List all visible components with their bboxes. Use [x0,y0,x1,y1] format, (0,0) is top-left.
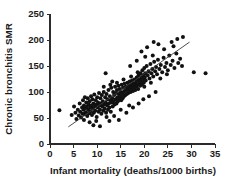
x-tick-label-30: 30 [186,148,197,159]
data-point [156,58,160,62]
data-point [166,68,170,72]
data-point [129,74,133,78]
data-point [157,67,161,71]
data-point [165,72,169,76]
data-point [172,66,176,70]
data-point [155,72,159,76]
data-point [119,108,123,112]
scatter-chart: 050100150200250 05101520253035 Infant mo… [0,0,228,178]
x-tick-label-20: 20 [139,148,150,159]
data-point [176,61,180,65]
data-point [149,81,153,85]
data-point [98,124,102,128]
data-point [94,119,98,123]
data-point [105,92,109,96]
data-point [117,118,121,122]
data-point [162,47,166,51]
data-point [135,59,139,63]
data-point [169,63,173,67]
data-point [147,76,151,80]
data-point [144,79,148,83]
data-point [115,81,119,85]
data-point [124,111,128,115]
y-tick-label-100: 100 [28,86,44,97]
data-point [158,76,162,80]
x-tick-labels: 05101520253035 [47,148,221,159]
y-tick-label-0: 0 [39,138,44,149]
regression-line [68,42,189,127]
x-tick-label-10: 10 [92,148,103,159]
data-point [172,44,176,48]
x-tick-label-5: 5 [71,148,77,159]
data-point [82,118,86,122]
y-tick-label-150: 150 [28,60,44,71]
data-point [148,62,152,66]
x-tick-label-35: 35 [210,148,221,159]
data-point [72,105,76,109]
y-tick-labels: 050100150200250 [28,8,44,149]
data-point [180,64,184,68]
data-point [154,90,158,94]
data-point [160,70,164,74]
data-point [127,104,131,108]
y-tick-label-200: 200 [28,34,44,45]
data-point [128,64,132,68]
x-axis-title: Infant mortality (deaths/1000 births) [50,165,216,176]
data-point [78,101,82,105]
x-tick-label-25: 25 [163,148,174,159]
data-point [152,60,156,64]
x-tick-label-15: 15 [115,148,126,159]
data-point [163,65,167,69]
data-point [102,85,106,89]
data-point [204,71,208,75]
data-point [156,42,160,46]
y-axis-title: Chronic bronchitis SMR [3,23,14,135]
data-point [142,85,146,89]
data-point [107,119,111,123]
data-point [91,123,95,127]
y-tick-label-50: 50 [33,112,44,123]
data-point [171,59,175,63]
data-point [105,115,109,119]
data-point [178,57,182,61]
data-point [145,64,149,68]
y-axis-group: 050100150200250 [28,8,50,149]
data-point [141,97,145,101]
data-point [112,114,116,118]
data-point [151,74,155,78]
data-point [181,35,185,39]
data-point [122,78,126,82]
data-point [139,49,143,53]
data-point [175,37,179,41]
data-point [70,113,74,117]
data-point [151,54,155,58]
y-tick-label-250: 250 [28,8,44,19]
data-point [109,110,113,114]
data-point [152,40,156,44]
data-point [164,61,168,65]
data-point [131,106,135,110]
x-tick-label-0: 0 [47,148,52,159]
data-point [192,70,196,74]
data-point [57,108,61,112]
data-point [95,115,99,119]
data-point [88,120,92,124]
data-point [170,40,174,44]
x-axis-group: 05101520253035 [47,144,221,159]
data-point [108,83,112,87]
data-point [145,45,149,49]
data-point [143,55,147,59]
data-point [104,71,108,75]
chart-canvas: 050100150200250 05101520253035 Infant mo… [0,0,228,178]
data-point [136,70,140,74]
data-point [147,94,151,98]
data-point [137,101,141,105]
